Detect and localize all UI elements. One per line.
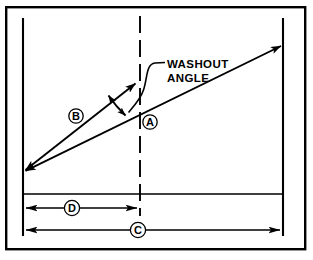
bubble-label-c: C bbox=[130, 222, 145, 237]
chord-line-a bbox=[26, 46, 282, 171]
callout-line-1: WASHOUT bbox=[167, 58, 229, 70]
bubble-label-d-text: D bbox=[68, 202, 76, 214]
bubble-label-a: A bbox=[143, 115, 157, 129]
bubble-label-c-text: C bbox=[134, 224, 142, 236]
bubble-label-b: B bbox=[69, 109, 83, 123]
bubble-label-b-text: B bbox=[72, 110, 80, 122]
outer-border bbox=[6, 7, 305, 249]
bubble-label-a-text: A bbox=[146, 116, 154, 128]
chord-line-b bbox=[26, 84, 136, 171]
diagram-canvas: WASHOUT ANGLE A B C D bbox=[0, 0, 313, 260]
washout-angle-diagram: WASHOUT ANGLE A B C D bbox=[0, 0, 313, 260]
bubble-label-d: D bbox=[64, 200, 79, 215]
callout-line-2: ANGLE bbox=[167, 72, 209, 84]
